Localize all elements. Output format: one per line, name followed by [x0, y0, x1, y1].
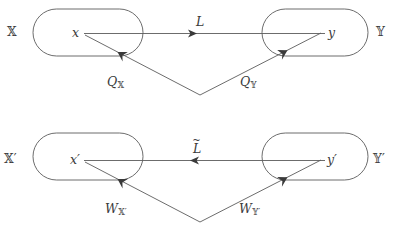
top-left-down-map-base: Q	[107, 74, 117, 89]
top-right-down-map-base: Q	[240, 74, 250, 89]
tilde-accent-icon: ~	[192, 135, 200, 145]
top-right-down-arrow-line	[200, 33, 321, 95]
top-left-node-label: x	[72, 27, 79, 40]
top-horizontal-map-label: L	[196, 16, 204, 29]
bottom-left-down-arrow-line	[85, 162, 200, 222]
top-right-node-label: y	[328, 27, 335, 40]
bottom-horizontal-map-label: ~L	[193, 143, 201, 156]
top-right-set-blob	[262, 9, 368, 56]
bottom-right-set-label: 𝕐′	[373, 153, 385, 166]
top-right-down-map-label: Q𝕐	[240, 76, 257, 90]
top-left-down-map-subscript: 𝕏	[118, 80, 125, 90]
top-right-set-label: 𝕐	[376, 26, 385, 39]
top-left-down-arrow-line	[85, 35, 200, 95]
bottom-right-down-map-subscript: 𝕐′	[252, 207, 260, 217]
bottom-right-down-map-base: W	[239, 201, 252, 216]
bottom-left-down-map-base: W	[105, 201, 118, 216]
bottom-left-set-blob	[33, 133, 143, 180]
bottom-right-down-arrow-line	[200, 160, 321, 222]
bottom-right-down-map-label: W𝕐′	[239, 203, 260, 217]
bottom-left-down-map-subscript: 𝕏′	[118, 207, 127, 217]
bottom-left-set-label: 𝕏′	[4, 153, 17, 166]
bottom-left-node-label: x′	[70, 154, 80, 167]
bottom-right-node-label: y′	[327, 154, 337, 167]
top-right-down-map-subscript: 𝕐	[251, 80, 257, 90]
bottom-right-set-blob	[262, 133, 368, 180]
top-left-set-blob	[33, 9, 143, 56]
bottom-horizontal-map-accented: ~L	[193, 143, 201, 156]
top-left-set-label: 𝕏	[7, 26, 17, 39]
diagram-canvas	[0, 0, 400, 225]
bottom-left-down-map-label: W𝕏′	[105, 203, 127, 217]
diagram-figure: 𝕏 𝕐 x y L Q𝕏 Q𝕐 𝕏′ 𝕐′ x′ y′ ~L W𝕏′ W𝕐′	[0, 0, 400, 225]
top-left-down-map-label: Q𝕏	[107, 76, 124, 90]
